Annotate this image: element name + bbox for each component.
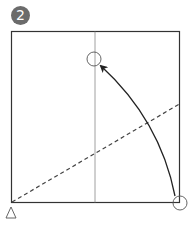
- target-point-circle: [87, 52, 101, 66]
- fold-arrow: [101, 66, 175, 196]
- valley-fold-line: [12, 104, 180, 202]
- fold-diagram: [0, 0, 192, 229]
- pivot-triangle-icon: [6, 207, 16, 218]
- paper-square: [12, 32, 180, 203]
